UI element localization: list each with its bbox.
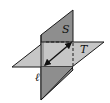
- label-l: ℓ: [35, 71, 40, 84]
- label-s: S: [62, 23, 70, 36]
- planes-diagram: S T ℓ: [0, 0, 110, 103]
